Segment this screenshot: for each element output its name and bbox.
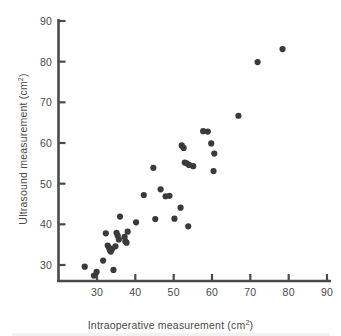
axes-lines: [57, 19, 331, 282]
data-point: [117, 214, 123, 220]
data-point: [125, 229, 131, 235]
data-point: [141, 192, 147, 198]
data-point: [235, 113, 241, 119]
data-point: [186, 162, 192, 168]
x-axis-title: Intraoperative measurement (cm2): [0, 319, 341, 331]
data-point: [205, 129, 211, 135]
data-point: [210, 168, 216, 174]
data-point: [100, 257, 106, 263]
x-tick-label: 30: [91, 286, 103, 298]
y-tick-label: 70: [30, 96, 52, 108]
x-tick-label: 70: [244, 286, 256, 298]
data-point: [177, 205, 183, 211]
y-tick-label: 50: [30, 178, 52, 190]
y-tick-label: 80: [30, 56, 52, 68]
x-axis-title-text: Intraoperative measurement (cm2): [88, 319, 254, 331]
data-point: [181, 145, 187, 151]
data-point: [109, 246, 115, 252]
data-point: [166, 193, 172, 199]
data-point: [279, 46, 285, 52]
data-point: [158, 186, 164, 192]
data-point: [211, 150, 217, 156]
data-point: [94, 269, 100, 275]
x-tick-label: 50: [168, 286, 180, 298]
y-axis-title: Ultrasound measurement (cm2): [17, 44, 29, 254]
data-point: [185, 223, 191, 229]
data-point: [150, 165, 156, 171]
x-tick-label: 90: [321, 286, 333, 298]
x-tick-label: 40: [129, 286, 141, 298]
data-point: [152, 216, 158, 222]
data-point: [255, 59, 261, 65]
y-tick-label: 40: [30, 218, 52, 230]
data-point: [123, 240, 129, 246]
data-point: [208, 140, 214, 146]
data-point: [110, 267, 116, 273]
y-tick-label: 30: [30, 259, 52, 271]
y-tick-label: 60: [30, 137, 52, 149]
y-axis-title-text: Ultrasound measurement (cm2): [17, 73, 29, 224]
data-point: [82, 264, 88, 270]
data-point: [116, 236, 122, 242]
data-point: [103, 230, 109, 236]
y-tick-label: 90: [30, 15, 52, 27]
data-points-group: [82, 46, 286, 279]
data-point: [171, 216, 177, 222]
data-point: [133, 219, 139, 225]
scatter-plot-figure: 30405060708090 30405060708090 Intraopera…: [0, 0, 341, 336]
x-tick-label: 60: [206, 286, 218, 298]
x-tick-label: 80: [283, 286, 295, 298]
